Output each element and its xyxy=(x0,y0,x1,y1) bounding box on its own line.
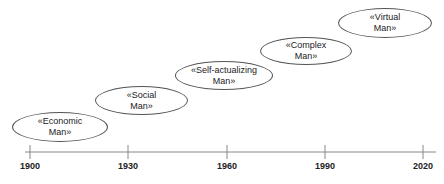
stage-virtual-man: «Virtual Man» xyxy=(338,8,432,38)
timeline-diagram: 1900 1930 1960 1990 2020 «Economic Man» … xyxy=(0,0,444,184)
stage-label-line1: «Virtual xyxy=(370,12,400,23)
stage-self-actualizing-man: «Self-actualizing Man» xyxy=(175,61,273,90)
year-label: 1990 xyxy=(315,161,335,171)
stage-label-line1: «Social xyxy=(127,90,157,101)
stage-label-line2: Man» xyxy=(370,23,400,34)
stage-label-line2: Man» xyxy=(286,51,327,62)
year-label: 1900 xyxy=(20,161,40,171)
stage-label-line2: Man» xyxy=(38,127,83,138)
stage-label-line1: «Economic xyxy=(38,116,83,127)
stage-label-line2: Man» xyxy=(127,101,157,112)
stage-label-line1: «Complex xyxy=(286,40,327,51)
stage-label-line1: «Self-actualizing xyxy=(191,65,257,76)
stage-complex-man: «Complex Man» xyxy=(260,37,352,65)
stage-label-line2: Man» xyxy=(191,76,257,87)
year-label: 1960 xyxy=(217,161,237,171)
year-label: 2020 xyxy=(413,161,433,171)
stage-social-man: «Social Man» xyxy=(95,86,188,115)
stage-economic-man: «Economic Man» xyxy=(12,112,108,142)
year-label: 1930 xyxy=(118,161,138,171)
